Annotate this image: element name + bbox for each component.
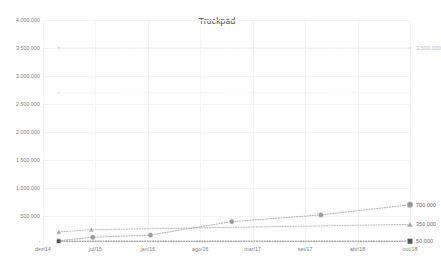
x-axis-labels: dez/14jul/15jan/16ago/16mar/17set/17abr/… <box>43 246 410 260</box>
y-axis-labels: 4.000.0003.500.0003.000.0002.500.0002.00… <box>0 20 40 244</box>
gridline-horizontal <box>43 216 410 217</box>
gridline-vertical <box>148 20 149 244</box>
y-axis-tick-label: 3.000.000 <box>2 73 40 79</box>
gridline-horizontal <box>43 132 410 133</box>
y-axis-tick-label: 2.000.000 <box>2 129 40 135</box>
x-axis-tick-label: abr/18 <box>350 246 365 252</box>
axis-origin-tick <box>39 241 40 242</box>
x-axis-tick-label: ago/16 <box>192 246 208 252</box>
gridline-horizontal <box>43 76 410 77</box>
gridline-vertical <box>200 20 201 244</box>
gridline-vertical <box>410 20 411 244</box>
y-axis-tick-label: 2.500.000 <box>2 101 40 107</box>
series-value-label: 50.000 <box>416 238 433 244</box>
x-axis-tick-label: jan/16 <box>140 246 155 252</box>
x-axis-tick-label: mar/17 <box>244 246 261 252</box>
y-axis-tick-label: 1.500.000 <box>2 157 40 163</box>
y-axis-tick-label: 1.000.000 <box>2 185 40 191</box>
series-value-label: 700.000 <box>416 202 436 208</box>
gridline-horizontal <box>43 188 410 189</box>
gridline-vertical <box>253 20 254 244</box>
plot-area <box>43 20 410 244</box>
x-axis-tick-label: dez/14 <box>35 246 51 252</box>
gridline-vertical <box>358 20 359 244</box>
y-axis-tick-label: 3.500.000 <box>2 45 40 51</box>
gridline-vertical <box>305 20 306 244</box>
y-axis-tick-label: 500.000 <box>2 213 40 219</box>
y-axis-tick-label: 4.000.000 <box>2 17 40 23</box>
gridline-vertical <box>95 20 96 244</box>
gridline-horizontal <box>43 20 410 21</box>
x-axis-tick-label: out/18 <box>402 246 417 252</box>
gridline-horizontal <box>43 160 410 161</box>
gridline-horizontal <box>43 104 410 105</box>
series-value-label: 350.000 <box>416 221 436 227</box>
gridline-horizontal <box>43 48 410 49</box>
x-axis-tick-label: jul/15 <box>89 246 102 252</box>
x-axis-tick-label: set/17 <box>298 246 313 252</box>
gridline-vertical <box>43 20 44 244</box>
series-value-label: 3.500.000 <box>416 45 441 51</box>
